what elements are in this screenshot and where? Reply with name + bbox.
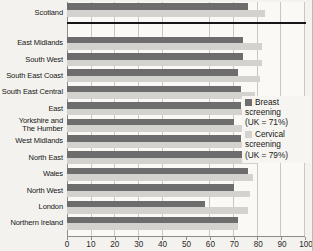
x-axis-labels: 0102030405060708090100	[67, 240, 306, 251]
category-label: West Midlands	[0, 137, 67, 145]
category-label: London	[0, 203, 67, 211]
category-label: East	[0, 105, 67, 113]
x-tick-label: 30	[134, 240, 143, 249]
legend-uk-average: (UK = 79%)	[245, 150, 311, 160]
x-tick-label: 100	[299, 240, 312, 249]
bar-group: Scotland	[0, 2, 305, 17]
cervical-legend-swatch-icon	[245, 131, 252, 138]
x-tick-label: 10	[86, 240, 95, 249]
bars-cell	[67, 217, 305, 230]
legend-uk-average: (UK = 71%)	[245, 117, 311, 127]
category-label: Northern Ireland	[0, 219, 67, 227]
category-label: South East Coast	[0, 72, 67, 80]
cervical-bar	[67, 109, 253, 116]
bars-cell	[67, 53, 305, 66]
x-tick-label: 60	[206, 240, 215, 249]
bar-group: East Midlands	[0, 35, 305, 51]
category-label: North East	[0, 154, 67, 162]
bar-group: London	[0, 199, 305, 215]
bar-group: Wales	[0, 166, 305, 182]
bar-group: Northern Ireland	[0, 215, 305, 231]
cervical-bar	[67, 174, 253, 181]
category-label: North West	[0, 187, 67, 195]
cervical-bar	[67, 142, 255, 149]
x-tick-label: 40	[158, 240, 167, 249]
uk-separator-row	[0, 17, 305, 35]
bars-cell	[67, 201, 305, 214]
x-tick-label: 70	[230, 240, 239, 249]
legend-item-cervical: Cervical screening (UK = 79%)	[245, 129, 311, 159]
bar-group: South East Coast	[0, 68, 305, 84]
x-tick-label: 90	[278, 240, 287, 249]
cervical-bar	[67, 60, 262, 67]
breast-bar	[67, 3, 248, 10]
category-label: Yorkshire andThe Humber	[0, 117, 67, 133]
x-tick-label: 20	[110, 240, 119, 249]
cervical-bar	[67, 92, 255, 99]
cervical-bar	[67, 191, 250, 198]
bars-cell	[67, 37, 305, 50]
legend: Breast screening (UK = 71%) Cervical scr…	[242, 96, 311, 163]
cervical-bar	[67, 43, 262, 50]
cervical-bar	[67, 125, 253, 132]
category-label: South West	[0, 56, 67, 64]
cervical-bar	[67, 207, 248, 214]
category-label: East Midlands	[0, 39, 67, 47]
bars-cell	[67, 3, 305, 17]
bar-group: South West	[0, 51, 305, 67]
bars-cell	[67, 184, 305, 197]
cervical-bar	[67, 223, 238, 230]
cervical-bar	[67, 76, 260, 83]
x-tick-label: 50	[182, 240, 191, 249]
uk-separator-line	[67, 22, 306, 24]
cervical-bar	[67, 158, 257, 165]
cervical-bar	[67, 10, 265, 17]
category-label: Scotland	[0, 9, 67, 17]
category-label: Wales	[0, 170, 67, 178]
bar-group: North West	[0, 183, 305, 199]
legend-item-breast: Breast screening (UK = 71%)	[245, 97, 311, 127]
breast-legend-swatch-icon	[245, 99, 252, 106]
bars-cell	[67, 168, 305, 181]
bars-cell	[67, 69, 305, 82]
category-label: South East Central	[0, 88, 67, 96]
x-tick-label: 0	[65, 240, 70, 249]
x-tick-label: 80	[254, 240, 263, 249]
screening-bar-chart: ScotlandEast MidlandsSouth WestSouth Eas…	[0, 0, 312, 251]
